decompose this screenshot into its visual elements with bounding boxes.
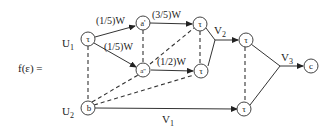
svg-text:V1: V1 [162, 113, 174, 128]
svg-text:τ: τ [242, 104, 246, 114]
svg-text:a': a' [141, 19, 147, 28]
svg-text:τ: τ [244, 35, 248, 45]
node-t-mid: τ [194, 64, 208, 78]
svg-text:U1: U1 [62, 37, 74, 52]
node-label-u1: U1 [62, 37, 74, 52]
svg-text:b: b [87, 103, 92, 113]
svg-text:τ: τ [198, 19, 202, 29]
node-a2: a'' [136, 63, 150, 77]
node-c: c [304, 59, 318, 73]
node-t-right: τ [239, 33, 253, 47]
svg-text:V2: V2 [214, 24, 226, 39]
edge-label-a2-tmid: (1/2)W [157, 56, 186, 68]
edge-label-u1-a1: (1/5)W [96, 15, 125, 27]
stochastic-diagram: f(ε) = (1/5)W (1/5)W (3/5)W (1/2)W V1 V2… [0, 0, 334, 131]
svg-text:V3: V3 [281, 51, 293, 66]
edge-label-v1: V1 [162, 113, 174, 128]
svg-text:U2: U2 [62, 105, 74, 120]
edge-label-v2: V2 [214, 24, 226, 39]
node-t-bottom: τ [237, 102, 251, 116]
node-u2: b [81, 101, 95, 115]
node-label-u2: U2 [62, 105, 74, 120]
svg-text:a'': a'' [140, 67, 146, 75]
edge-label-u1-a2: (1/5)W [104, 41, 133, 53]
edge-label-v3: V3 [281, 51, 293, 66]
formula-label: f(ε) = [18, 62, 43, 75]
node-t-top: τ [193, 17, 207, 31]
svg-text:c: c [309, 61, 313, 71]
node-u1: τ [81, 32, 95, 46]
svg-text:τ: τ [86, 34, 90, 44]
node-a1: a' [136, 16, 150, 30]
edge-label-a1-ttop: (3/5)W [152, 9, 181, 21]
svg-text:τ: τ [199, 66, 203, 76]
